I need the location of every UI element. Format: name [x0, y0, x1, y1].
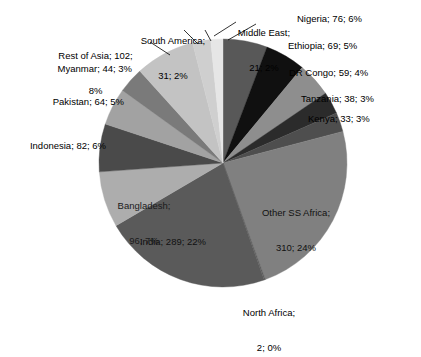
slice-label-nigeria: Nigeria; 76; 6%: [297, 13, 419, 25]
slice-label-north-africa: North Africa; 2; 0%: [214, 284, 324, 357]
slice-label-dr-congo: DR Congo; 59; 4%: [289, 67, 419, 79]
slice-label-myanmar: Myanmar; 44; 3%: [10, 63, 132, 75]
slice-label-other-ss-africa-line1: Other SS Africa;: [242, 207, 350, 219]
slice-label-other-ss-africa-line2: 310; 24%: [242, 242, 350, 254]
slice-label-middle-east-line1: Middle East;: [214, 27, 314, 39]
slice-label-other-ss-africa: Other SS Africa; 310; 24%: [242, 184, 350, 276]
slice-label-ethiopia: Ethiopia; 69; 5%: [288, 40, 418, 52]
slice-label-tanzania: Tanzania; 38; 3%: [301, 93, 421, 105]
slice-label-india: India; 289; 22%: [118, 236, 228, 248]
slice-label-pakistan: Pakistan; 64; 5%: [6, 96, 124, 108]
slice-label-indonesia: Indonesia; 82; 6%: [0, 140, 106, 152]
slice-label-north-africa-line1: North Africa;: [214, 307, 324, 319]
slice-label-bangladesh-line1: Bangladesh;: [89, 200, 199, 212]
slice-label-bangladesh: Bangladesh; 96; 7%: [89, 177, 199, 269]
slice-label-rest-of-asia-line1: Rest of Asia; 102;: [38, 50, 153, 62]
slice-label-kenya: Kenya; 33; 3%: [308, 113, 421, 125]
slice-label-rest-of-asia-line2: 8%: [38, 85, 153, 97]
slice-label-north-africa-line2: 2; 0%: [214, 342, 324, 354]
